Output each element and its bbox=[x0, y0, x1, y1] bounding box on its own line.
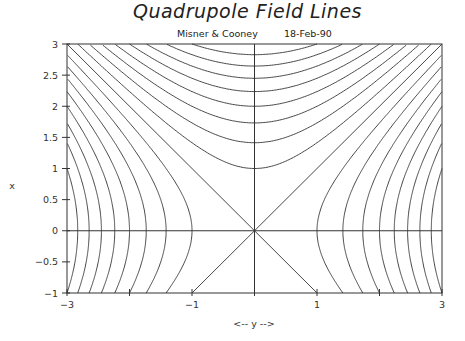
y-tick-label: 0.5 bbox=[43, 194, 58, 205]
x-tick-label: 3 bbox=[439, 299, 445, 310]
field-line-side bbox=[68, 67, 166, 293]
x-tick-label: −1 bbox=[185, 299, 199, 310]
plot-area: −3−113−1−0.500.511.522.53 <-- y --> x bbox=[0, 0, 465, 341]
field-line-side bbox=[420, 144, 442, 293]
field-line-side bbox=[317, 55, 441, 293]
y-tick-label: −1 bbox=[44, 288, 58, 299]
y-tick-label: 0 bbox=[52, 225, 58, 236]
axes bbox=[67, 44, 442, 293]
x-tick-label: −3 bbox=[60, 299, 74, 310]
y-tick-label: 2.5 bbox=[43, 70, 58, 81]
y-tick-label: 2 bbox=[52, 101, 58, 112]
y-tick-label: −0.5 bbox=[35, 256, 58, 267]
x-axis-label: <-- y --> bbox=[233, 318, 274, 329]
field-line-side bbox=[68, 55, 192, 293]
field-line-side bbox=[343, 67, 441, 293]
y-axis-label: x bbox=[9, 180, 15, 191]
y-tick-label: 3 bbox=[52, 39, 58, 50]
asymptote-line bbox=[67, 44, 317, 293]
y-tick-label: 1 bbox=[52, 163, 58, 174]
asymptote-line bbox=[192, 44, 442, 293]
field-line-side bbox=[408, 124, 442, 293]
x-tick-label: 1 bbox=[314, 299, 320, 310]
field-line-side bbox=[67, 144, 89, 293]
field-line-side bbox=[68, 124, 102, 293]
y-tick-label: 1.5 bbox=[43, 132, 58, 143]
